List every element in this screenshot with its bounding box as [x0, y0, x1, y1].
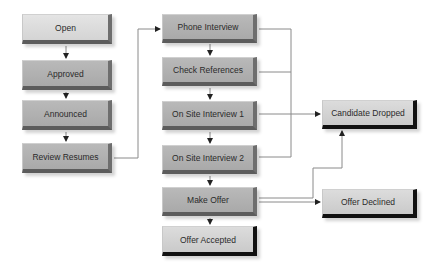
node-on-site-interview-2: On Site Interview 2	[162, 145, 257, 174]
node-approved: Approved	[22, 60, 112, 90]
node-on-site-interview-1: On Site Interview 1	[162, 101, 257, 130]
node-label: Candidate Dropped	[331, 108, 405, 118]
node-label: Check References	[173, 65, 243, 75]
node-label: On Site Interview 1	[172, 109, 244, 119]
node-label: Review Resumes	[32, 152, 98, 162]
node-open: Open	[22, 14, 112, 44]
node-offer-accepted: Offer Accepted	[162, 226, 257, 256]
node-label: Approved	[47, 69, 83, 79]
hiring-process-flowchart: Open Approved Announced Review Resumes P…	[0, 0, 436, 271]
edge-offer-dropped	[259, 131, 342, 198]
node-label: Open	[55, 23, 76, 33]
node-review-resumes: Review Resumes	[22, 143, 112, 173]
node-candidate-dropped: Candidate Dropped	[322, 100, 417, 129]
node-offer-declined: Offer Declined	[322, 189, 417, 218]
edge-bus-dropped	[259, 29, 291, 157]
node-make-offer: Make Offer	[162, 187, 257, 216]
node-label: Make Offer	[187, 195, 229, 205]
node-phone-interview: Phone Interview	[162, 14, 257, 43]
node-label: Phone Interview	[178, 22, 239, 32]
node-label: Announced	[44, 109, 87, 119]
node-announced: Announced	[22, 100, 112, 130]
node-label: Offer Accepted	[180, 235, 236, 245]
node-label: Offer Declined	[341, 197, 395, 207]
node-check-references: Check References	[162, 57, 257, 86]
node-label: On Site Interview 2	[172, 153, 244, 163]
edge-review-phone	[114, 29, 160, 158]
